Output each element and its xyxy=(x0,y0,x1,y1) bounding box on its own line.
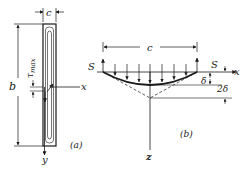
stress-contour-inner xyxy=(48,31,52,139)
span-label-c: c xyxy=(147,42,153,53)
double-delta-label: 2δ xyxy=(216,84,228,94)
x-axis-label-b: x xyxy=(234,66,240,77)
thin-rectangular-section xyxy=(43,24,56,146)
shear-arrow-diagonal xyxy=(47,84,53,92)
membrane-analogy-diagram: c b τmax x y (a) xyxy=(0,0,250,171)
caption-b: (b) xyxy=(180,129,193,139)
width-label-c: c xyxy=(46,7,52,18)
x-axis-label-a: x xyxy=(81,81,87,92)
height-label-b: b xyxy=(9,80,16,93)
z-axis-label-b: z xyxy=(145,151,152,162)
right-force-label-s: S xyxy=(211,59,218,70)
left-force-label-s: S xyxy=(88,61,95,72)
delta-label: δ xyxy=(201,76,206,86)
y-axis-label-a: y xyxy=(41,154,48,165)
caption-a: (a) xyxy=(70,140,83,150)
pressure-load-arrows xyxy=(115,64,186,83)
figure-a xyxy=(14,8,80,155)
tau-max-label: τmax xyxy=(25,58,37,78)
